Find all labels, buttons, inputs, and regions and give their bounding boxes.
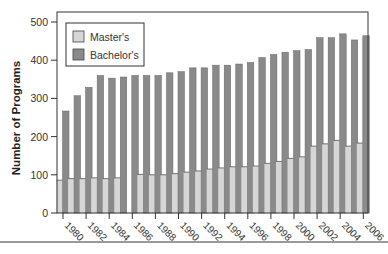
bar-masters xyxy=(264,163,270,213)
bar-bachelors xyxy=(351,40,358,213)
x-tick-label: 1994 xyxy=(224,220,248,244)
legend: Master's Bachelor's xyxy=(66,23,144,66)
y-tick-label: 0 xyxy=(42,207,48,219)
y-axis: 0100200300400500 xyxy=(30,16,57,219)
bar-bachelors xyxy=(270,54,277,213)
bar-bachelors xyxy=(63,111,70,213)
bar-masters xyxy=(195,171,201,213)
x-tick-label: 2002 xyxy=(317,220,341,244)
y-axis-label: Number of Programs xyxy=(10,61,22,175)
bar-masters xyxy=(357,143,363,213)
bar-masters xyxy=(288,158,294,213)
x-tick-label: 1996 xyxy=(247,220,271,244)
bar-masters xyxy=(172,174,178,213)
bar-bachelors xyxy=(178,72,185,213)
bar-bachelors xyxy=(236,64,243,213)
bar-bachelors xyxy=(294,51,301,213)
bar-masters xyxy=(299,157,305,213)
bar-masters xyxy=(149,175,155,213)
legend-label-bachelors: Bachelor's xyxy=(90,49,139,61)
bar-bachelors xyxy=(132,75,139,213)
legend-swatch-bachelors xyxy=(73,49,84,60)
x-tick-label: 2004 xyxy=(340,220,364,244)
bar-masters xyxy=(311,146,317,213)
bar-masters xyxy=(218,168,224,213)
bar-bachelors xyxy=(328,38,335,213)
bar-bachelors xyxy=(97,75,104,213)
bar-masters xyxy=(184,172,190,213)
bar-masters xyxy=(253,166,259,213)
x-tick-label: 1984 xyxy=(109,220,133,244)
x-tick-label: 2000 xyxy=(294,220,318,244)
x-tick-label: 1998 xyxy=(270,220,294,244)
bar-masters xyxy=(160,175,166,213)
x-tick-label: 1982 xyxy=(86,220,110,244)
bar-chart: 0100200300400500 19801982198419861988199… xyxy=(0,0,388,254)
bar-bachelors xyxy=(224,65,231,213)
bar-masters xyxy=(137,174,143,213)
bar-masters xyxy=(230,167,236,213)
legend-label-masters: Master's xyxy=(90,31,129,43)
bar-bachelors xyxy=(74,96,81,213)
bar-masters xyxy=(103,179,109,213)
y-tick-label: 100 xyxy=(30,169,48,181)
bar-bachelors xyxy=(247,62,254,213)
bar-bachelors xyxy=(213,65,220,213)
y-tick-label: 300 xyxy=(30,92,48,104)
bar-bachelors xyxy=(317,38,324,213)
bar-masters xyxy=(207,169,213,213)
bar-bachelors xyxy=(143,75,150,213)
bar-masters xyxy=(345,146,351,213)
bar-bachelors xyxy=(190,68,197,213)
bar-masters xyxy=(241,167,247,213)
x-tick-label: 1992 xyxy=(201,220,225,244)
bar-bachelors xyxy=(305,50,312,213)
bar-bachelors xyxy=(109,78,116,213)
bar-masters xyxy=(114,178,120,213)
bar-masters xyxy=(276,161,282,213)
y-tick-label: 400 xyxy=(30,54,48,66)
bar-bachelors xyxy=(166,73,173,213)
bar-bachelors xyxy=(201,68,208,213)
bar-bachelors xyxy=(120,77,127,213)
bar-masters xyxy=(68,179,74,213)
legend-swatch-masters xyxy=(73,31,84,42)
x-tick-label: 1990 xyxy=(178,220,202,244)
x-axis: 1980198219841986198819901992199419961998… xyxy=(63,213,387,243)
bar-bachelors xyxy=(155,75,162,213)
bar-bachelors xyxy=(282,52,289,213)
bar-masters xyxy=(91,178,97,213)
y-tick-label: 500 xyxy=(30,16,48,28)
y-tick-label: 200 xyxy=(30,131,48,143)
bar-masters xyxy=(334,140,340,213)
bar-bachelors xyxy=(86,87,93,213)
bar-bachelors xyxy=(340,34,347,213)
x-tick-label: 1980 xyxy=(63,220,87,244)
x-tick-label: 1986 xyxy=(132,220,156,244)
x-tick-label: 1988 xyxy=(155,220,179,244)
bar-bachelors xyxy=(259,58,266,213)
x-tick-label: 2006 xyxy=(363,220,387,244)
bar-masters xyxy=(322,144,328,213)
bar-masters xyxy=(80,179,86,213)
bottom-divider xyxy=(0,241,388,243)
